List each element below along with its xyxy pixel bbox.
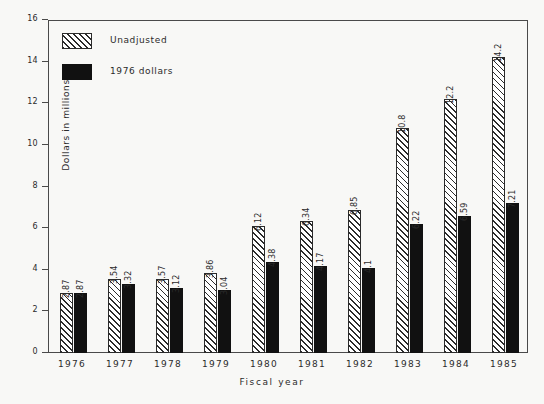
x-axis-label: 1979 xyxy=(192,359,240,369)
x-axis-label: 1976 xyxy=(48,359,96,369)
bar-value-label: 6.34 xyxy=(302,207,311,226)
bar-value-label: 3.12 xyxy=(172,274,181,293)
bar-value-label: 6.59 xyxy=(460,202,469,221)
y-tick-mark xyxy=(42,19,48,20)
x-axis-label: 1983 xyxy=(384,359,432,369)
y-tick-label: 8 xyxy=(33,181,38,190)
y-tick-mark xyxy=(42,102,48,103)
y-tick-mark xyxy=(42,310,48,311)
x-axis-label: 1982 xyxy=(336,359,384,369)
bar-value-label: 6.12 xyxy=(254,212,263,231)
x-axis-label: 1980 xyxy=(240,359,288,369)
x-axis-label: 1981 xyxy=(288,359,336,369)
bar-value-label: 12.2 xyxy=(446,85,455,104)
bar-value-label: 3.54 xyxy=(110,266,119,285)
y-tick-mark xyxy=(42,352,48,353)
y-tick-mark xyxy=(42,269,48,270)
bar-real-dollars xyxy=(218,290,231,353)
bar-real-dollars xyxy=(458,216,471,353)
bar-real-dollars xyxy=(122,284,135,353)
y-tick-label: 12 xyxy=(27,97,38,106)
bar-value-label: 3.86 xyxy=(206,259,215,278)
x-axis-title: Fiscal year xyxy=(0,377,544,387)
bar-real-dollars xyxy=(74,293,87,353)
legend-item: 1976 dollars xyxy=(62,64,262,82)
y-tick-label: 10 xyxy=(27,139,38,148)
bar-real-dollars xyxy=(506,203,519,353)
bar-unadjusted xyxy=(108,279,121,353)
bar-value-label: 2.87 xyxy=(62,280,71,299)
bar-unadjusted xyxy=(156,279,169,353)
bar-value-label: 10.8 xyxy=(398,115,407,134)
y-tick-label: 6 xyxy=(33,222,38,231)
bar-unadjusted xyxy=(492,57,505,353)
bar-unadjusted xyxy=(348,210,361,353)
bar-value-label: 2.87 xyxy=(76,280,85,299)
bar-value-label: 3.57 xyxy=(158,265,167,284)
x-axis-label: 1978 xyxy=(144,359,192,369)
bar-real-dollars xyxy=(314,266,327,353)
x-axis-label: 1985 xyxy=(480,359,528,369)
bar-value-label: 3.32 xyxy=(124,270,133,289)
y-tick-label: 0 xyxy=(33,347,38,356)
bar-unadjusted xyxy=(60,293,73,353)
y-tick-label: 16 xyxy=(27,14,38,23)
y-tick-mark xyxy=(42,61,48,62)
bar-value-label: 4.1 xyxy=(364,259,373,272)
bar-unadjusted xyxy=(300,221,313,353)
y-tick-mark xyxy=(42,227,48,228)
bar-value-label: 14.2 xyxy=(494,44,503,63)
bar-unadjusted xyxy=(204,273,217,353)
x-axis-label: 1977 xyxy=(96,359,144,369)
y-tick-label: 14 xyxy=(27,56,38,65)
legend-label: 1976 dollars xyxy=(110,66,173,76)
bar-real-dollars xyxy=(362,268,375,353)
bar-value-label: 3.04 xyxy=(220,276,229,295)
filled-square-icon xyxy=(62,64,92,80)
bar-unadjusted xyxy=(444,99,457,353)
chart-page: Dollars in millions 0246810121416 197619… xyxy=(0,0,544,404)
hatched-square-icon xyxy=(62,33,92,49)
bar-real-dollars xyxy=(170,288,183,353)
bar-value-label: 6.85 xyxy=(350,197,359,216)
y-tick-mark xyxy=(42,186,48,187)
y-tick-label: 4 xyxy=(33,264,38,273)
bar-value-label: 6.22 xyxy=(412,210,421,229)
y-tick-mark xyxy=(42,144,48,145)
y-tick-label: 2 xyxy=(33,305,38,314)
bar-value-label: 7.21 xyxy=(508,189,517,208)
bar-unadjusted xyxy=(396,128,409,353)
x-axis-label: 1984 xyxy=(432,359,480,369)
bar-real-dollars xyxy=(410,224,423,353)
bar-unadjusted xyxy=(252,226,265,353)
bar-real-dollars xyxy=(266,262,279,353)
bar-value-label: 4.38 xyxy=(268,248,277,267)
legend-item: Unadjusted xyxy=(62,33,262,51)
legend-label: Unadjusted xyxy=(110,35,167,45)
bar-value-label: 4.17 xyxy=(316,253,325,272)
